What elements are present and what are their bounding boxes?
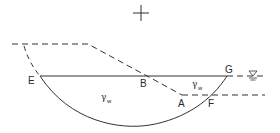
failure-arc-solid <box>40 76 227 126</box>
label-A: A <box>178 98 185 109</box>
label-F: F <box>208 98 214 109</box>
svg-text:w: w <box>106 98 112 104</box>
label-E: E <box>28 75 35 86</box>
main-region-unit-weight: γ w <box>101 92 112 104</box>
label-G: G <box>225 64 233 75</box>
right-region-unit-weight: γ w <box>192 79 203 91</box>
failure-arc-dashed <box>24 46 40 76</box>
center-cross-icon <box>133 5 149 21</box>
ground-surface-dashed <box>12 44 182 95</box>
label-B: B <box>140 78 147 89</box>
svg-text:w: w <box>197 85 203 91</box>
svg-text:γ: γ <box>101 92 106 102</box>
slope-diagram: E B G A F γ w γ w <box>0 0 280 133</box>
svg-text:γ: γ <box>192 79 197 89</box>
